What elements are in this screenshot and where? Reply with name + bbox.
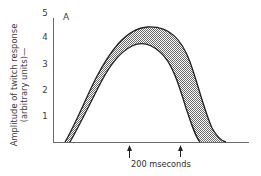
scale-marker-start <box>127 145 132 158</box>
twitch-response-chart: Amplitude of twitch response (arbitrary … <box>0 0 261 176</box>
plot-area <box>0 0 261 176</box>
scale-marker-end <box>178 145 183 157</box>
time-scale-label: 200 mseconds <box>131 159 191 169</box>
